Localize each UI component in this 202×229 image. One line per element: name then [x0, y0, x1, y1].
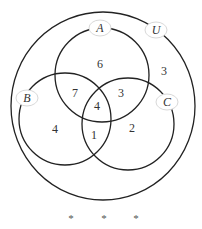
region-c-only: 2 — [129, 121, 135, 135]
separator-star-1: * — [68, 212, 74, 224]
region-b-only: 4 — [52, 122, 58, 136]
set-a-circle — [55, 28, 149, 122]
label-c: C — [156, 94, 178, 110]
region-a-and-b: 7 — [72, 86, 78, 100]
label-u: U — [145, 22, 167, 38]
svg-text:B: B — [23, 91, 31, 105]
svg-text:U: U — [152, 23, 162, 37]
label-a: A — [89, 20, 111, 36]
label-b: B — [16, 90, 38, 106]
region-b-and-c: 1 — [91, 128, 97, 142]
svg-text:A: A — [95, 21, 104, 35]
separator-star-2: * — [101, 212, 107, 224]
separator-star-3: * — [133, 212, 139, 224]
region-a-and-c: 3 — [118, 86, 124, 100]
region-a-b-c: 4 — [94, 99, 100, 113]
venn-diagram: A U B C 6 3 7 3 4 4 1 2 * * * — [0, 0, 202, 229]
svg-text:C: C — [163, 95, 172, 109]
set-b-circle — [19, 73, 111, 165]
set-c-circle — [82, 78, 174, 170]
region-a-only: 6 — [97, 57, 103, 71]
region-outside: 3 — [161, 64, 167, 78]
